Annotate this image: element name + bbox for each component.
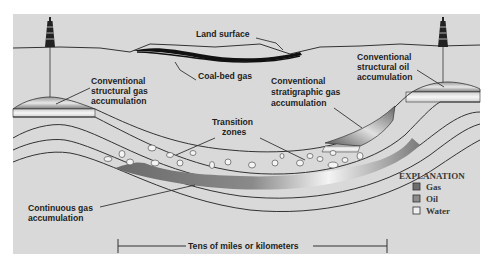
legend-label-water: Water	[426, 206, 450, 216]
label-coal-bed-gas: Coal-bed gas	[198, 71, 252, 81]
label-conv-struct-oil-2: structural oil	[357, 62, 409, 72]
label-conv-strat-gas-3: accumulation	[271, 98, 326, 108]
label-land-surface: Land surface	[196, 29, 250, 39]
label-conv-strat-gas-2: stratigraphic gas	[271, 87, 340, 97]
legend-title: EXPLANATION	[399, 171, 465, 181]
label-conv-struct-oil-3: accumulation	[357, 72, 412, 82]
label-transition-2: zones	[222, 127, 247, 137]
legend-swatch-gas	[413, 183, 420, 190]
legend-label-gas: Gas	[426, 182, 442, 192]
stratigraphic-water	[322, 146, 360, 152]
label-conv-struct-oil-1: Conventional	[357, 52, 411, 62]
legend-swatch-oil	[413, 195, 420, 202]
label-conv-struct-gas-1: Conventional	[91, 76, 145, 86]
scale-bar-label: Tens of miles or kilometers	[188, 241, 299, 251]
left-water-band	[13, 109, 95, 117]
legend-swatch-water	[413, 207, 420, 214]
petroleum-accumulation-diagram: Land surface Coal-bed gas Conventional s…	[0, 0, 493, 272]
label-continuous-gas-2: accumulation	[28, 213, 83, 223]
label-conv-struct-gas-3: accumulation	[91, 96, 146, 106]
label-conv-struct-gas-2: structural gas	[91, 86, 148, 96]
label-conv-strat-gas-1: Conventional	[271, 76, 325, 86]
label-transition-1: Transition	[212, 117, 253, 127]
right-water-band	[406, 92, 480, 102]
legend-label-oil: Oil	[426, 194, 439, 204]
label-continuous-gas-1: Continuous gas	[28, 203, 93, 213]
